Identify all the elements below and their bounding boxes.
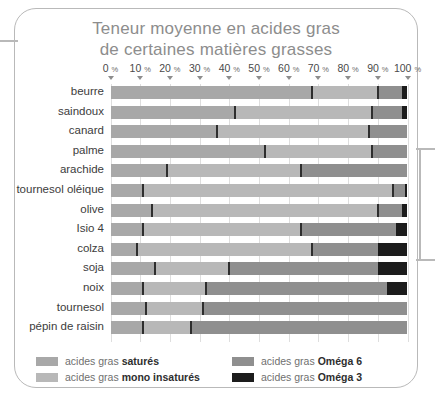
segment-divider bbox=[234, 106, 236, 119]
bar-segment-mono bbox=[312, 86, 377, 99]
segment-divider bbox=[142, 282, 144, 295]
x-tick-label-80: 80 % bbox=[337, 62, 358, 74]
legend-item-omega6[interactable]: acides gras Oméga 6 bbox=[232, 354, 362, 368]
bar-segment-mono bbox=[137, 243, 312, 256]
bar-segment-mono bbox=[217, 125, 368, 138]
segment-divider bbox=[311, 86, 313, 99]
stacked-bar bbox=[111, 145, 408, 158]
chart-title-line2: de certaines matières grasses bbox=[14, 39, 418, 60]
bar-segment-mono bbox=[146, 302, 202, 315]
category-label: saindoux bbox=[58, 105, 104, 117]
segment-divider bbox=[392, 184, 394, 197]
bar-segment-omega3 bbox=[402, 204, 408, 217]
chart-row: palme bbox=[0, 145, 435, 158]
stacked-bar bbox=[111, 243, 408, 256]
segment-divider bbox=[377, 86, 379, 99]
bar-segment-satures bbox=[111, 321, 144, 334]
stacked-bar bbox=[111, 282, 408, 295]
legend-label-omega6: acides gras Oméga 6 bbox=[261, 355, 362, 367]
category-label: olive bbox=[80, 203, 104, 215]
x-tick-label-70: 70 % bbox=[308, 62, 329, 74]
bar-segment-omega3 bbox=[387, 282, 408, 295]
stacked-bar bbox=[111, 204, 408, 217]
bar-segment-satures bbox=[111, 125, 218, 138]
stacked-bar bbox=[111, 106, 408, 119]
bar-segment-satures bbox=[111, 282, 144, 295]
chart-row: colza bbox=[0, 243, 435, 256]
category-label: pépin de raisin bbox=[29, 320, 104, 332]
x-tick-mark-70 bbox=[315, 76, 321, 80]
stacked-bar bbox=[111, 223, 408, 236]
chart-row: Isio 4 bbox=[0, 223, 435, 236]
stacked-bar bbox=[111, 184, 408, 197]
x-tick-label-40: 40 % bbox=[219, 62, 240, 74]
category-label: canard bbox=[69, 124, 104, 136]
segment-divider bbox=[377, 204, 379, 217]
bar-segment-satures bbox=[111, 302, 147, 315]
chart-row: arachide bbox=[0, 164, 435, 177]
category-label: colza bbox=[77, 242, 104, 254]
category-label: palme bbox=[73, 144, 104, 156]
category-label: tournesol oléique bbox=[16, 183, 104, 195]
stacked-bar bbox=[111, 262, 408, 275]
x-tick-label-60: 60 % bbox=[278, 62, 299, 74]
legend-item-omega3[interactable]: acides gras Oméga 3 bbox=[232, 370, 362, 384]
stacked-bar bbox=[111, 164, 408, 177]
x-tick-mark-40 bbox=[226, 76, 232, 80]
bar-segment-omega6 bbox=[312, 243, 377, 256]
x-tick-label-50: 50 % bbox=[248, 62, 269, 74]
bar-segment-satures bbox=[111, 243, 138, 256]
chart-row: noix bbox=[0, 282, 435, 295]
legend-label-omega3: acides gras Oméga 3 bbox=[261, 371, 362, 383]
segment-divider bbox=[136, 243, 138, 256]
segment-divider bbox=[142, 223, 144, 236]
bar-segment-omega3 bbox=[405, 184, 408, 197]
legend-swatch-omega6 bbox=[232, 357, 254, 366]
chart-area: 0 %10 %20 %30 %40 %50 %60 %70 %80 %90 %1… bbox=[0, 62, 435, 347]
legend-item-mono[interactable]: acides gras mono insaturés bbox=[36, 370, 200, 384]
x-tick-mark-90 bbox=[375, 76, 381, 80]
x-tick-mark-60 bbox=[286, 76, 292, 80]
category-label: Isio 4 bbox=[77, 222, 105, 234]
stacked-bar bbox=[111, 321, 408, 334]
bar-segment-satures bbox=[111, 86, 313, 99]
bar-segment-satures bbox=[111, 164, 167, 177]
segment-divider bbox=[371, 106, 373, 119]
x-tick-label-0: 0 % bbox=[103, 62, 118, 74]
stacked-bar bbox=[111, 86, 408, 99]
bar-segment-omega6 bbox=[229, 262, 378, 275]
bar-segment-omega3 bbox=[396, 223, 408, 236]
bar-segment-satures bbox=[111, 106, 236, 119]
legend-item-satures[interactable]: acides gras saturés bbox=[36, 354, 159, 368]
bar-segment-omega6 bbox=[203, 302, 408, 315]
category-label: beurre bbox=[71, 85, 104, 97]
segment-divider bbox=[264, 145, 266, 158]
legend-swatch-omega3 bbox=[232, 373, 254, 382]
legend-swatch-satures bbox=[36, 357, 58, 366]
x-tick-mark-20 bbox=[167, 76, 173, 80]
bar-segment-omega6 bbox=[378, 86, 402, 99]
chart-row: soja bbox=[0, 262, 435, 275]
x-tick-label-90: 90 % bbox=[367, 62, 388, 74]
bar-segment-mono bbox=[143, 321, 191, 334]
bar-segment-omega3 bbox=[378, 243, 408, 256]
bar-segment-mono bbox=[167, 164, 301, 177]
chart-row: olive bbox=[0, 204, 435, 217]
stacked-bar bbox=[111, 302, 408, 315]
x-tick-mark-50 bbox=[256, 76, 262, 80]
bar-segment-omega3 bbox=[378, 262, 408, 275]
legend-label-satures: acides gras saturés bbox=[65, 355, 159, 367]
x-tick-mark-10 bbox=[137, 76, 143, 80]
segment-divider bbox=[371, 145, 373, 158]
segment-divider bbox=[190, 321, 192, 334]
bar-segment-omega3 bbox=[402, 86, 408, 99]
segment-divider bbox=[145, 302, 147, 315]
segment-divider bbox=[368, 125, 370, 138]
segment-divider bbox=[154, 262, 156, 275]
chart-row: beurre bbox=[0, 86, 435, 99]
bar-segment-omega6 bbox=[393, 184, 405, 197]
legend-swatch-mono bbox=[36, 373, 58, 382]
bar-segment-omega6 bbox=[378, 204, 402, 217]
segment-divider bbox=[311, 243, 313, 256]
x-tick-label-100: 100 % bbox=[394, 62, 421, 74]
